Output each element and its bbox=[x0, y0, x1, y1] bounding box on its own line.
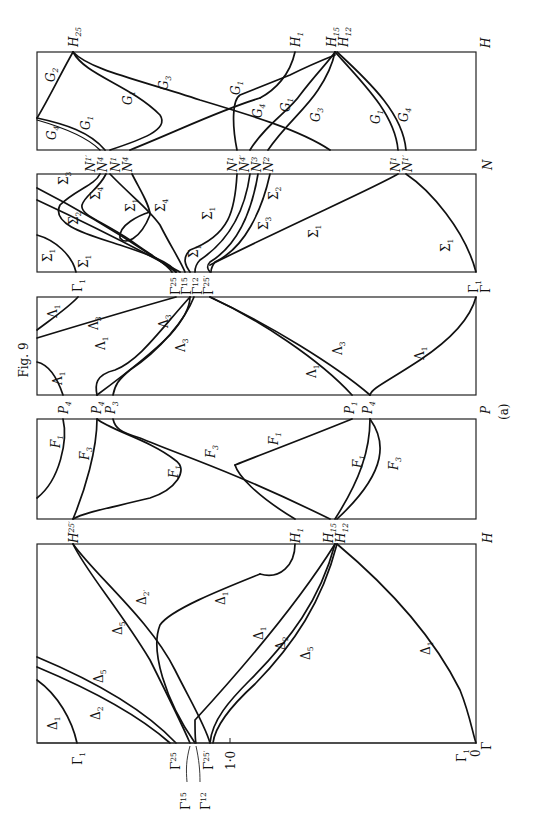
svg-text:Λ1: Λ1 bbox=[413, 347, 429, 361]
gamma-labels-bottom: Γ1 Γ25 Γ15 Γ12 Γ25′ 1·0 Γ1 0 Γ bbox=[71, 738, 494, 810]
svg-text:Γ25′: Γ25′ bbox=[202, 275, 216, 295]
svg-text:Λ3: Λ3 bbox=[174, 338, 190, 353]
delta-panel-labels: Δ1 Δ2 Δ5 Δ5 Δ2′ Δ1 Δ1 Δ2 Δ5 Δ1 bbox=[46, 590, 435, 730]
svg-text:F3: F3 bbox=[78, 447, 94, 461]
p-labels: P4 P4 P3 P1 P4 P (a) bbox=[57, 401, 511, 420]
svg-text:G3: G3 bbox=[309, 107, 325, 122]
svg-text:Σ2: Σ2 bbox=[67, 212, 83, 225]
svg-text:Σ1: Σ1 bbox=[307, 225, 323, 238]
svg-text:Δ5: Δ5 bbox=[92, 669, 108, 683]
svg-text:Δ2′: Δ2′ bbox=[135, 590, 151, 605]
svg-text:N4: N4 bbox=[96, 157, 110, 174]
svg-text:Λ1: Λ1 bbox=[46, 305, 62, 319]
figure-caption: (a) bbox=[497, 403, 511, 420]
svg-text:Γ25′: Γ25′ bbox=[202, 750, 216, 770]
h-axis-label-top: H bbox=[479, 37, 493, 49]
svg-text:P1: P1 bbox=[343, 401, 359, 415]
svg-text:F1: F1 bbox=[167, 465, 183, 479]
n-axis-label: N bbox=[481, 159, 495, 171]
svg-text:F3: F3 bbox=[387, 457, 403, 471]
svg-text:Σ1: Σ1 bbox=[201, 207, 217, 220]
svg-text:Σ1: Σ1 bbox=[439, 239, 455, 252]
svg-text:Σ4: Σ4 bbox=[154, 199, 170, 212]
svg-text:N1′: N1′ bbox=[401, 155, 415, 173]
svg-text:N2: N2 bbox=[262, 157, 276, 174]
svg-text:H1: H1 bbox=[289, 528, 305, 544]
panel-g-frame bbox=[37, 52, 476, 150]
svg-text:P4: P4 bbox=[361, 401, 377, 415]
svg-text:Γ1: Γ1 bbox=[71, 752, 87, 765]
f-panel-bands bbox=[37, 419, 380, 519]
svg-text:G3: G3 bbox=[157, 75, 173, 90]
svg-text:Δ1: Δ1 bbox=[214, 592, 230, 605]
svg-text:G4: G4 bbox=[397, 107, 413, 122]
g-panel-bands bbox=[37, 52, 406, 150]
gamma-axis-label-bottom: Γ bbox=[480, 742, 494, 750]
svg-text:Σ4: Σ4 bbox=[89, 187, 105, 200]
svg-text:Λ3: Λ3 bbox=[331, 341, 347, 356]
svg-text:Δ2: Δ2 bbox=[89, 706, 105, 720]
n-labels: N1′ N4 N1 N4 N1 N4′ N3 N2 N1 N1′ N bbox=[84, 155, 495, 173]
svg-text:G1: G1 bbox=[279, 98, 295, 112]
svg-text:Λ1: Λ1 bbox=[94, 337, 110, 351]
svg-text:Λ3: Λ3 bbox=[87, 316, 103, 331]
svg-text:P3: P3 bbox=[104, 401, 120, 415]
svg-text:Δ1: Δ1 bbox=[252, 627, 268, 640]
svg-text:Σ3: Σ3 bbox=[257, 217, 273, 230]
svg-text:F1: F1 bbox=[351, 455, 367, 469]
svg-text:G2: G2 bbox=[44, 67, 60, 82]
band-structure-figure: Fig. 9 H25 G2 G4 G1 G1 G3 G1 G4 bbox=[0, 0, 535, 815]
svg-text:Σ1: Σ1 bbox=[124, 199, 140, 212]
svg-text:Λ3: Λ3 bbox=[157, 314, 173, 329]
svg-text:Σ1: Σ1 bbox=[41, 249, 57, 262]
svg-text:H1: H1 bbox=[289, 32, 305, 48]
h-axis-label-mid: H bbox=[481, 532, 495, 544]
figure-title: Fig. 9 bbox=[17, 342, 31, 377]
svg-text:G4: G4 bbox=[45, 125, 61, 140]
svg-text:F1: F1 bbox=[267, 432, 283, 446]
svg-text:Γ1: Γ1 bbox=[71, 279, 87, 292]
svg-text:Δ2: Δ2 bbox=[274, 636, 290, 650]
svg-text:G1: G1 bbox=[369, 110, 385, 124]
svg-text:F3: F3 bbox=[204, 445, 220, 459]
svg-text:Δ5: Δ5 bbox=[111, 621, 127, 635]
svg-text:H25: H25 bbox=[67, 27, 83, 48]
svg-text:Σ2: Σ2 bbox=[267, 187, 283, 200]
gamma-labels-mid: Γ1 Γ25 Γ15 Γ12 Γ25′ Γ1 Γ bbox=[71, 275, 493, 295]
svg-text:G4: G4 bbox=[251, 103, 267, 118]
svg-text:Γ15: Γ15 bbox=[179, 792, 193, 810]
svg-text:Λ1: Λ1 bbox=[305, 365, 321, 379]
h-labels-mid: H25′ H1 H15 H12 H bbox=[67, 521, 495, 544]
svg-text:Σ1: Σ1 bbox=[77, 255, 93, 268]
p-axis-label: P bbox=[479, 405, 493, 415]
svg-text:G1: G1 bbox=[121, 91, 137, 105]
panel-f-frame bbox=[37, 419, 476, 519]
svg-text:P4: P4 bbox=[57, 401, 73, 415]
svg-text:Γ12: Γ12 bbox=[199, 792, 213, 810]
svg-text:Δ1: Δ1 bbox=[419, 642, 435, 655]
svg-text:G1: G1 bbox=[79, 116, 95, 130]
svg-text:N4: N4 bbox=[121, 157, 135, 174]
svg-text:Γ25: Γ25 bbox=[169, 752, 183, 770]
svg-text:G1: G1 bbox=[229, 81, 245, 95]
svg-text:Δ5: Δ5 bbox=[299, 646, 315, 660]
energy-tick-1: 1·0 bbox=[224, 751, 238, 770]
svg-text:H25′: H25′ bbox=[67, 521, 81, 544]
svg-text:Δ1: Δ1 bbox=[46, 717, 62, 730]
svg-text:F1: F1 bbox=[49, 435, 65, 449]
gamma-axis-label-mid: Γ bbox=[479, 285, 493, 293]
svg-text:Σ1: Σ1 bbox=[187, 245, 203, 258]
